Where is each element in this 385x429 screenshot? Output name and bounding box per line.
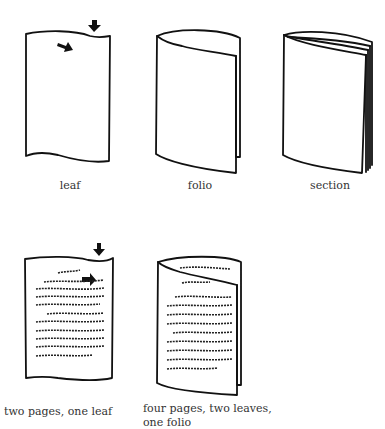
caption-two-pages: two pages, one leaf <box>4 405 139 419</box>
two-pages-figure <box>25 257 113 380</box>
section-figure <box>283 32 372 173</box>
arrow-icon <box>82 273 96 286</box>
folio-figure <box>156 30 240 173</box>
arrow-icon <box>93 243 105 256</box>
caption-leaf: leaf <box>40 179 100 193</box>
arrow-icon <box>88 20 101 32</box>
caption-four-pages-line1: four pages, two leaves, <box>143 402 303 416</box>
caption-folio: folio <box>170 179 230 193</box>
four-pages-figure <box>157 257 241 395</box>
arrow-icon <box>57 42 73 52</box>
caption-section: section <box>295 179 365 193</box>
caption-four-pages-line2: one folio <box>143 416 303 429</box>
book-structure-diagram <box>0 0 385 429</box>
